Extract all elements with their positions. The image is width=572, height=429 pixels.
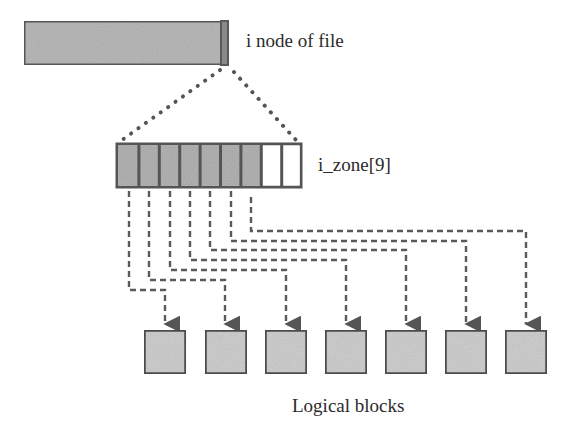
connector-3 — [170, 191, 286, 324]
izone-cell-9 — [282, 146, 300, 186]
connector-1 — [129, 191, 165, 324]
logical-block-5 — [385, 330, 427, 374]
logical-block-4 — [325, 330, 367, 374]
logical-block-7 — [505, 330, 547, 374]
izone-cell-4 — [180, 146, 200, 186]
izone-cell-8 — [261, 146, 281, 186]
izone-cell-7 — [241, 146, 261, 186]
connector-5 — [210, 191, 406, 324]
izone-cell-6 — [221, 146, 241, 186]
logical-block-3 — [265, 330, 307, 374]
inode-label: i node of file — [246, 30, 344, 52]
expansion-lines — [122, 70, 296, 140]
logical-blocks — [144, 330, 547, 374]
logical-block-6 — [445, 330, 487, 374]
expansion-line-right — [234, 72, 296, 140]
logical-block-2 — [205, 330, 247, 374]
izone-cell-5 — [200, 146, 220, 186]
inode-box — [24, 21, 228, 65]
connector-4 — [190, 191, 346, 324]
izone-cell-1 — [119, 146, 139, 186]
logical-block-1 — [144, 330, 186, 374]
expansion-line-left — [122, 70, 220, 140]
connector-2 — [149, 191, 225, 324]
logical-blocks-label: Logical blocks — [292, 395, 404, 417]
izone-label: i_zone[9] — [318, 154, 391, 176]
izone-array — [117, 144, 301, 187]
izone-cell-2 — [139, 146, 159, 186]
zone-connectors — [129, 191, 526, 324]
izone-cell-3 — [159, 146, 179, 186]
connector-6 — [231, 191, 466, 324]
inode-zone-diagram — [0, 0, 572, 429]
